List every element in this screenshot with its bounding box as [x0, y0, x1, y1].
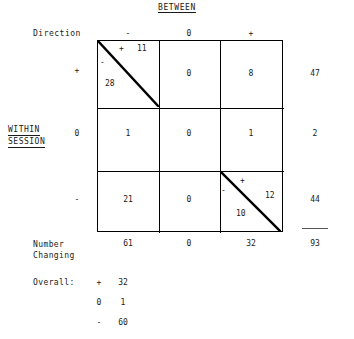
table-cell-r0c2: 8 — [220, 69, 282, 78]
table-cell-r1c2: 1 — [220, 129, 282, 138]
cell-r0c0-plus-value: 11 — [137, 44, 147, 53]
overall-value-minus: 60 — [112, 318, 134, 327]
column-total-plus: 32 — [220, 239, 282, 248]
column-header-minus: - — [97, 29, 159, 38]
grand-total-rule — [302, 228, 328, 229]
row-header-plus: + — [64, 66, 90, 75]
row-total-minus: 44 — [300, 195, 330, 204]
diagonal-line-icon — [220, 171, 281, 232]
row-total-plus: 47 — [300, 69, 330, 78]
cell-minus-plus-diagonal-divider — [220, 171, 281, 237]
cell-plus-minus-diagonal-divider — [98, 41, 159, 107]
overall-sign-zero: 0 — [92, 298, 106, 307]
cell-r0c0-minus-value: 28 — [105, 79, 115, 88]
direction-label: Direction — [33, 29, 81, 38]
between-title: BETWEEN — [0, 3, 354, 12]
table-cell-r0c1: 0 — [158, 69, 220, 78]
within-session-line-2: SESSION — [8, 136, 45, 148]
overall-label: Overall: — [33, 278, 75, 287]
within-session-line-1: WITHIN — [8, 124, 45, 136]
cell-r2c2-minus-value: 10 — [236, 209, 246, 218]
cell-r2c2-minus-sign: - — [221, 186, 226, 195]
row-header-zero: 0 — [64, 129, 90, 138]
within-session-text-2: SESSION — [8, 136, 45, 148]
grid-horizontal-line-1 — [98, 108, 284, 109]
column-header-plus: + — [220, 29, 282, 38]
number-changing-label: Number Changing — [33, 239, 75, 261]
cell-r2c2-plus-sign: + — [240, 176, 245, 185]
overall-sign-minus: - — [92, 318, 106, 327]
number-changing-line-2: Changing — [33, 251, 75, 260]
overall-value-plus: 32 — [112, 278, 134, 287]
row-header-minus: - — [64, 195, 90, 204]
table-cell-r2c0: 21 — [97, 195, 159, 204]
row-total-zero: 2 — [300, 129, 330, 138]
number-changing-line-1: Number — [33, 240, 64, 249]
column-header-zero: 0 — [158, 29, 220, 38]
grand-total: 93 — [300, 239, 330, 248]
overall-sign-plus: + — [92, 278, 106, 287]
cell-r0c0-plus-sign: + — [119, 44, 124, 53]
cell-r0c0-minus-sign: - — [100, 58, 105, 67]
within-session-label: WITHIN SESSION — [8, 124, 45, 148]
table-cell-r1c0: 1 — [97, 129, 159, 138]
column-total-minus: 61 — [97, 239, 159, 248]
table-cell-r2c1: 0 — [158, 195, 220, 204]
overall-value-zero: 1 — [112, 298, 134, 307]
within-session-text-1: WITHIN — [8, 124, 40, 136]
table-cell-r1c1: 0 — [158, 129, 220, 138]
cell-r2c2-plus-value: 12 — [265, 191, 275, 200]
diagonal-line-icon — [98, 41, 159, 107]
column-total-zero: 0 — [158, 239, 220, 248]
between-title-text: BETWEEN — [158, 3, 196, 13]
